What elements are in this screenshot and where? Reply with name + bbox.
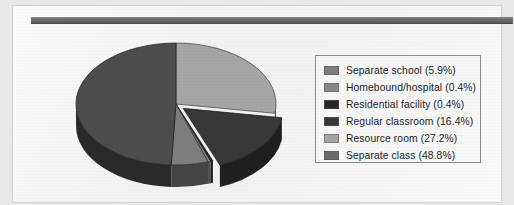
legend-swatch-separate-school	[324, 66, 339, 75]
legend-item-resource-room[interactable]: Resource room (27.2%)	[324, 130, 480, 146]
legend-label-residential-facility: Residential facility (0.4%)	[346, 99, 464, 110]
legend-item-regular-classroom[interactable]: Regular classroom (16.4%)	[324, 113, 480, 129]
legend-item-residential-facility[interactable]: Residential facility (0.4%)	[324, 96, 480, 112]
legend-item-separate-school[interactable]: Separate school (5.9%)	[324, 62, 480, 78]
legend-item-separate-class[interactable]: Separate class (48.8%)	[324, 147, 480, 163]
legend-swatch-residential-facility	[324, 100, 339, 109]
pie-chart-svg: Resource room (27.2%)Regular classroom (…	[35, 28, 313, 198]
pie-chart: Resource room (27.2%)Regular classroom (…	[35, 28, 313, 198]
legend-label-homebound-hospital: Homebound/hospital (0.4%)	[346, 82, 476, 93]
screenshot-root: Resource room (27.2%)Regular classroom (…	[0, 0, 514, 205]
chart-legend: Separate school (5.9%) Homebound/hospita…	[315, 55, 481, 163]
legend-label-regular-classroom: Regular classroom (16.4%)	[346, 116, 473, 127]
legend-label-separate-school: Separate school (5.9%)	[346, 65, 456, 76]
legend-label-separate-class: Separate class (48.8%)	[346, 150, 455, 161]
legend-swatch-homebound-hospital	[324, 83, 339, 92]
legend-label-resource-room: Resource room (27.2%)	[346, 133, 457, 144]
pie-slice-side-separate-school	[171, 162, 208, 187]
legend-swatch-resource-room	[324, 134, 339, 143]
legend-swatch-regular-classroom	[324, 117, 339, 126]
pie-slice-side-homebound-hospital	[208, 161, 210, 184]
horizontal-rule-divider	[31, 17, 513, 24]
scanned-page: Resource room (27.2%)Regular classroom (…	[13, 6, 501, 202]
pie-slice-side-residential-facility	[210, 161, 212, 184]
pie-slice-resource-room[interactable]: Resource room (27.2%)	[176, 43, 276, 113]
legend-item-homebound-hospital[interactable]: Homebound/hospital (0.4%)	[324, 79, 480, 95]
legend-swatch-separate-class	[324, 151, 339, 160]
pie-top-faces: Resource room (27.2%)Regular classroom (…	[76, 43, 282, 165]
